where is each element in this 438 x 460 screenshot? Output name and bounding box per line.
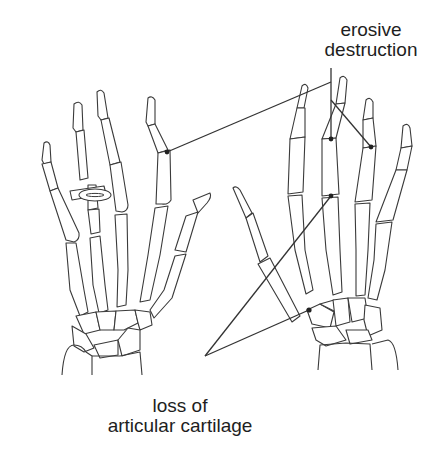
lesion-right-ring-pip (369, 145, 374, 150)
label-loss-of-articular-cartilage: loss of articular cartilage (70, 396, 290, 436)
right-middle-finger (322, 76, 347, 295)
label-loss-line1: loss of (70, 396, 290, 416)
lesion-right-middle-mcp (329, 194, 334, 199)
left-index-finger (140, 97, 171, 302)
left-carpal-bones (72, 310, 152, 358)
lesion-right-wrist (306, 307, 311, 312)
label-loss-line2: articular cartilage (70, 416, 290, 436)
label-erosive-line2: destruction (296, 40, 438, 60)
label-erosive-destruction: erosive destruction (296, 20, 438, 60)
left-hand (42, 90, 211, 375)
ring-on-finger (70, 186, 111, 201)
label-erosive-line1: erosive (296, 20, 438, 40)
right-forearm (318, 340, 398, 370)
hand-skeleton-diagram (0, 0, 438, 460)
lesion-left-index-pip (165, 150, 170, 155)
right-index-finger (288, 84, 313, 294)
lesion-right-middle-pip (329, 137, 334, 142)
right-carpal-bones (307, 298, 382, 346)
right-hand (233, 76, 412, 370)
